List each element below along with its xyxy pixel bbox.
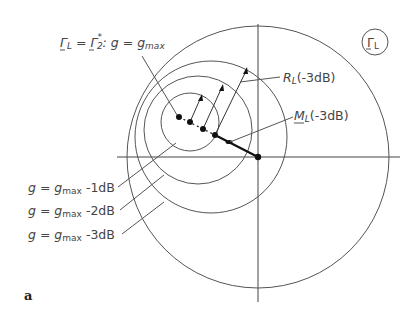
optimum-leader: [142, 56, 177, 115]
optimum-label: ΓL = Γ*2: g = gmax: [60, 32, 165, 51]
contour-3db-leader: [122, 202, 164, 234]
contour-label-3db: g = gmax -3dB: [28, 227, 115, 243]
radius-leader: [240, 77, 280, 82]
center-leader: [230, 117, 293, 142]
reflection-plane-badge: ΓL: [362, 29, 388, 55]
centers-locus-line: [179, 117, 215, 135]
gain-circle-diagram: ΓL ΓL = Γ*2: g = gmax RL(-3dB) ML(-3dB) …: [0, 0, 410, 326]
panel-label: a: [24, 288, 33, 303]
contour-1db-leader: [118, 143, 176, 187]
contour-label-1db: g = gmax -1dB: [28, 180, 115, 196]
radius-label: RL(-3dB): [283, 70, 335, 86]
contour-label-2db: g = gmax -2dB: [28, 203, 115, 219]
gain-circle-3db: [135, 61, 287, 213]
center-label: ML(-3dB): [294, 108, 349, 124]
